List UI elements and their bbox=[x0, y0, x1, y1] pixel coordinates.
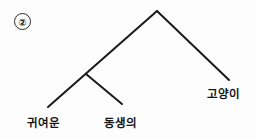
tree-leaf-label-2: 동생의 bbox=[104, 114, 138, 130]
edge-internal-to-middle-leaf bbox=[86, 74, 122, 104]
item-number-marker: ② bbox=[14, 13, 31, 30]
tree-leaf-label-3: 고양이 bbox=[207, 85, 241, 101]
edge-root-to-left-leaf bbox=[48, 11, 157, 107]
diagram-canvas: ② 귀여운 동생의 고양이 bbox=[0, 0, 256, 139]
tree-leaf-label-1: 귀여운 bbox=[27, 114, 61, 130]
edge-root-to-right-leaf bbox=[157, 11, 229, 80]
